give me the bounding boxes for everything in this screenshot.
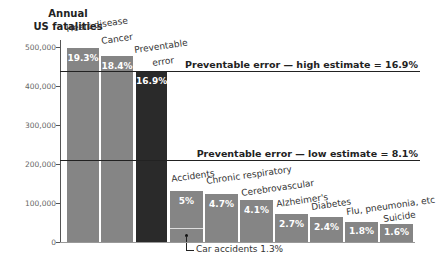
bar-suicide: 1.6% (380, 224, 413, 242)
y-tick-label: 200,000 (25, 160, 56, 169)
bar-diabetes: 2.4% (310, 217, 343, 242)
y-tick-label: 0 (51, 238, 56, 247)
category-label: Cancer (101, 32, 134, 46)
y-tick (56, 203, 60, 204)
car-accidents-leader (186, 250, 194, 251)
bar-preventable-error: 16.9% (136, 71, 167, 242)
y-tick (56, 47, 60, 48)
bar-flu-pneumonia: 1.8% (345, 222, 378, 242)
y-tick (56, 125, 60, 126)
y-tick-label: 500,000 (25, 43, 56, 52)
category-label: error (152, 55, 175, 68)
car-accidents-leader (186, 236, 187, 250)
bar-heart-disease: 19.3% (67, 48, 99, 242)
bar-value: 1.8% (345, 226, 378, 236)
bar-alzheimers: 2.7% (275, 214, 308, 242)
high-estimate-label: Preventable error — high estimate = 16.9… (185, 59, 418, 70)
bar-cancer: 18.4% (101, 56, 133, 242)
bar-cerebrovascular: 4.1% (240, 200, 273, 242)
bar-value: 4.1% (240, 205, 273, 215)
bar-value: 1.6% (380, 227, 413, 237)
bar-value: 2.4% (310, 222, 343, 232)
car-accidents-label: Car accidents 1.3% (196, 244, 283, 254)
y-tick (56, 86, 60, 87)
high-estimate-line (60, 71, 420, 72)
car-accidents-segment-line (170, 228, 203, 229)
category-label: Suicide (383, 210, 417, 224)
y-tick (56, 164, 60, 165)
y-tick-label: 100,000 (25, 199, 56, 208)
y-tick-label: 300,000 (25, 121, 56, 130)
y-tick-label: 400,000 (25, 82, 56, 91)
bar-value: 16.9% (136, 76, 167, 86)
bar-value: 18.4% (101, 61, 133, 71)
bar-value: 2.7% (275, 219, 308, 229)
low-estimate-line (60, 160, 420, 161)
category-label: Preventable (134, 38, 189, 55)
bar-value: 19.3% (67, 53, 99, 63)
bar-value: 5% (170, 196, 203, 206)
x-axis-baseline (60, 242, 415, 243)
bar-chronic-respiratory: 4.7% (205, 194, 238, 242)
bar-value: 4.7% (205, 199, 238, 209)
low-estimate-label: Preventable error — low estimate = 8.1% (197, 148, 418, 159)
